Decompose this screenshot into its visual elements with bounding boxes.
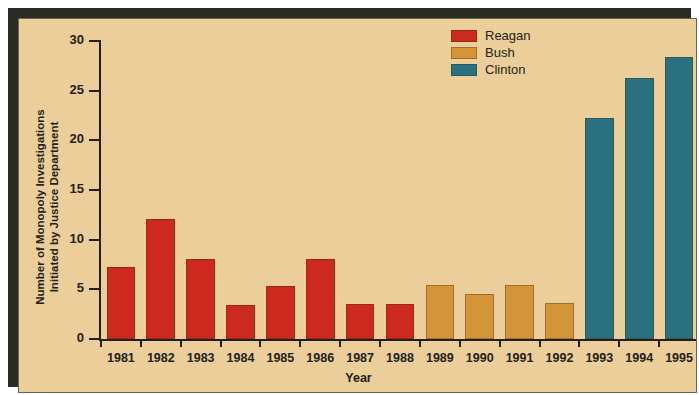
- y-tick-label-5: 5: [58, 280, 84, 295]
- x-tick-1988: [419, 341, 421, 347]
- bar-1987[interactable]: [346, 304, 375, 339]
- y-tick-15: 15: [89, 189, 101, 191]
- bar-slot-1988: [380, 41, 420, 339]
- x-tick-1992: [578, 341, 580, 347]
- bar-slot-1992: [540, 41, 580, 339]
- y-axis-title-line-1: Number of Monopoly Investigations: [33, 109, 47, 305]
- x-tick-1987: [379, 341, 381, 347]
- bar-1983[interactable]: [186, 259, 215, 339]
- legend-item-reagan[interactable]: Reagan: [451, 27, 531, 44]
- legend-label-clinton: Clinton: [485, 62, 525, 77]
- x-tick-label-1990: 1990: [460, 351, 500, 365]
- bar-slot-1993: [579, 41, 619, 339]
- x-tick-1993: [618, 341, 620, 347]
- x-tick-label-1986: 1986: [300, 351, 340, 365]
- bar-slot-1990: [460, 41, 500, 339]
- x-tick-1982: [180, 341, 182, 347]
- chart-plot-area: Number of Monopoly Investigations Initia…: [18, 18, 697, 393]
- y-tick-0: 0: [89, 338, 101, 340]
- bar-slot-1995: [659, 41, 697, 339]
- bar-1984[interactable]: [226, 305, 255, 339]
- bar-1981[interactable]: [107, 267, 136, 339]
- bar-slot-1987: [340, 41, 380, 339]
- x-tick-label-1994: 1994: [619, 351, 659, 365]
- bar-1995[interactable]: [665, 57, 694, 339]
- legend: ReaganBushClinton: [451, 27, 531, 78]
- x-tick-1994: [658, 341, 660, 347]
- x-tick-1981: [140, 341, 142, 347]
- bar-1988[interactable]: [386, 304, 415, 339]
- bar-1990[interactable]: [465, 294, 494, 339]
- bar-1989[interactable]: [426, 285, 455, 339]
- bar-slot-1982: [141, 41, 181, 339]
- y-tick-5: 5: [89, 288, 101, 290]
- bar-1982[interactable]: [146, 219, 175, 339]
- x-tick-label-1989: 1989: [420, 351, 460, 365]
- x-tick-1990: [499, 341, 501, 347]
- x-tick-label-1983: 1983: [181, 351, 221, 365]
- x-tick-1991: [539, 341, 541, 347]
- y-tick-20: 20: [89, 139, 101, 141]
- x-tick-label-1991: 1991: [500, 351, 540, 365]
- y-tick-label-20: 20: [58, 131, 84, 146]
- bar-1985[interactable]: [266, 286, 295, 339]
- x-tick-label-1995: 1995: [659, 351, 697, 365]
- bar-1986[interactable]: [306, 259, 335, 339]
- legend-swatch-clinton: [451, 64, 477, 76]
- y-tick-10: 10: [89, 239, 101, 241]
- x-tick-label-1987: 1987: [340, 351, 380, 365]
- bar-slot-1981: [101, 41, 141, 339]
- x-tick-1989: [459, 341, 461, 347]
- chart-figure: Number of Monopoly Investigations Initia…: [0, 0, 699, 395]
- y-tick-label-0: 0: [58, 330, 84, 345]
- x-tick-1986: [339, 341, 341, 347]
- x-tick-label-1988: 1988: [380, 351, 420, 365]
- x-tick-label-1985: 1985: [260, 351, 300, 365]
- bar-1991[interactable]: [505, 285, 534, 339]
- x-tick-label-1993: 1993: [579, 351, 619, 365]
- bar-slot-1989: [420, 41, 460, 339]
- x-tick-label-1981: 1981: [101, 351, 141, 365]
- bar-slot-1986: [300, 41, 340, 339]
- x-tick-label-1992: 1992: [540, 351, 580, 365]
- bar-slot-1984: [221, 41, 261, 339]
- x-tick-1983: [220, 341, 222, 347]
- y-tick-label-15: 15: [58, 181, 84, 196]
- y-tick-label-10: 10: [58, 231, 84, 246]
- bar-slot-1994: [619, 41, 659, 339]
- bar-slot-1991: [500, 41, 540, 339]
- bar-1992[interactable]: [545, 303, 574, 339]
- y-tick-30: 30: [89, 40, 101, 42]
- bar-slot-1983: [181, 41, 221, 339]
- legend-label-reagan: Reagan: [485, 28, 531, 43]
- y-tick-25: 25: [89, 90, 101, 92]
- x-axis-title: Year: [19, 371, 697, 385]
- legend-swatch-bush: [451, 47, 477, 59]
- x-tick-1984: [259, 341, 261, 347]
- x-tick-1985: [299, 341, 301, 347]
- x-axis-line: [99, 339, 697, 341]
- legend-label-bush: Bush: [485, 45, 515, 60]
- y-tick-label-25: 25: [58, 82, 84, 97]
- x-tick-origin: [100, 341, 102, 347]
- chart-frame: Number of Monopoly Investigations Initia…: [8, 8, 691, 387]
- legend-item-bush[interactable]: Bush: [451, 44, 531, 61]
- x-tick-label-1982: 1982: [141, 351, 181, 365]
- bar-1994[interactable]: [625, 78, 654, 339]
- legend-item-clinton[interactable]: Clinton: [451, 61, 531, 78]
- bars-container: [101, 41, 697, 339]
- x-tick-label-1984: 1984: [221, 351, 261, 365]
- bar-slot-1985: [260, 41, 300, 339]
- y-tick-label-30: 30: [58, 32, 84, 47]
- bar-1993[interactable]: [585, 118, 614, 340]
- legend-swatch-reagan: [451, 30, 477, 42]
